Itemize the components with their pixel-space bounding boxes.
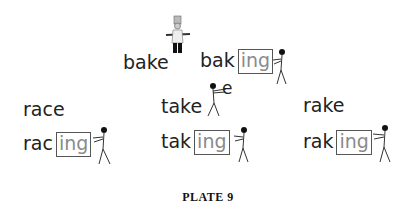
word-take: take — [161, 97, 202, 116]
stick-figure-icon — [233, 126, 253, 164]
word-racing: racing — [23, 132, 91, 157]
plate-caption: PLATE 9 — [0, 190, 416, 205]
suffix-ing-box: ing — [194, 130, 229, 155]
stem-rak: rak — [303, 130, 333, 152]
word-taking: taking — [161, 130, 230, 155]
suffix-ing-box: ing — [56, 132, 91, 157]
word-rake: rake — [303, 96, 344, 115]
stem-tak: tak — [161, 130, 191, 152]
word-baking: baking — [200, 49, 273, 74]
suffix-ing-box: ing — [336, 130, 371, 155]
stem-rac: rac — [23, 132, 53, 154]
removed-letter-e: e — [222, 80, 232, 97]
word-raking: raking — [303, 130, 372, 155]
word-bake: bake — [123, 53, 169, 72]
stick-figure-icon — [272, 48, 292, 86]
word-race: race — [23, 100, 65, 119]
suffix-ing-box: ing — [238, 49, 273, 74]
stem-bak: bak — [200, 49, 235, 71]
stick-figure-icon — [92, 126, 114, 166]
chef-icon — [164, 13, 192, 55]
stick-figure-icon — [372, 124, 394, 164]
